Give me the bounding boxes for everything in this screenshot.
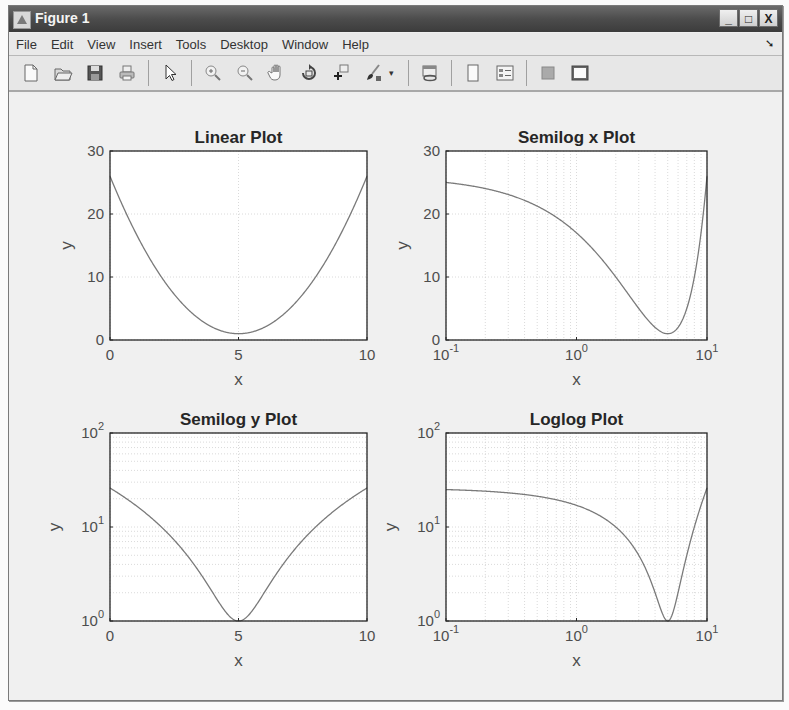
insert-legend-button[interactable] <box>493 61 517 85</box>
y-axis-label: y <box>57 241 76 250</box>
menu-file[interactable]: File <box>9 37 44 52</box>
tick-label: 20 <box>87 205 104 222</box>
link-plot-button[interactable] <box>418 61 442 85</box>
x-axis-label: x <box>234 651 243 670</box>
menu-edit[interactable]: Edit <box>44 37 80 52</box>
semilogx-plot-axes[interactable]: Semilog x Plot10-11001010102030xy <box>393 128 718 389</box>
tick-label: 0 <box>106 346 114 363</box>
hide-plot-tools-button[interactable] <box>536 61 560 85</box>
toolbar-separator <box>191 60 192 86</box>
zoom-out-button[interactable] <box>233 61 257 85</box>
tick-label: 101 <box>81 514 104 535</box>
close-button[interactable]: X <box>759 9 778 27</box>
tick-label: 100 <box>81 608 104 629</box>
zoom-in-button[interactable] <box>201 61 225 85</box>
tick-label: 102 <box>417 420 440 441</box>
edit-plot-button[interactable] <box>158 61 182 85</box>
menu-desktop[interactable]: Desktop <box>213 37 275 52</box>
save-figure-button[interactable] <box>83 61 107 85</box>
zoom-in-icon <box>203 63 223 83</box>
window-title: Figure 1 <box>35 10 89 26</box>
y-axis-label: y <box>381 522 400 531</box>
insert-colorbar-button[interactable] <box>461 61 485 85</box>
semilogy-plot-axes[interactable]: Semilog y Plot0510100101102xy <box>45 410 375 670</box>
menu-window[interactable]: Window <box>275 37 335 52</box>
zoom-out-icon <box>235 63 255 83</box>
hide-tools-icon <box>538 63 558 83</box>
menu-help[interactable]: Help <box>335 37 376 52</box>
plot-area <box>110 151 367 340</box>
figure-window: Figure 1 _ □ X File Edit View Insert Too… <box>8 5 783 701</box>
brush-dropdown-icon[interactable]: ▾ <box>389 68 399 78</box>
brush-button[interactable] <box>361 61 385 85</box>
tick-label: 101 <box>696 623 719 644</box>
tick-label: 30 <box>423 142 440 159</box>
show-tools-icon <box>570 63 590 83</box>
pan-button[interactable] <box>265 61 289 85</box>
subplot-canvas[interactable]: Linear Plot05100102030xySemilog x Plot10… <box>9 94 782 700</box>
plot-title: Semilog x Plot <box>518 128 635 147</box>
rotate-3d-button[interactable] <box>297 61 321 85</box>
legend-icon <box>495 63 515 83</box>
brush-icon <box>363 63 383 83</box>
tick-label: 0 <box>96 331 104 348</box>
y-axis-label: y <box>393 241 412 250</box>
title-bar[interactable]: Figure 1 _ □ X <box>9 6 782 32</box>
plot-title: Semilog y Plot <box>180 410 297 429</box>
tick-label: 10-1 <box>433 623 459 644</box>
menu-bar: File Edit View Insert Tools Desktop Wind… <box>9 33 782 56</box>
tick-label: 0 <box>432 331 440 348</box>
y-axis-label: y <box>45 522 64 531</box>
rotate-icon <box>299 63 319 83</box>
menu-tools[interactable]: Tools <box>169 37 213 52</box>
colorbar-icon <box>463 63 483 83</box>
x-axis-label: x <box>234 370 243 389</box>
plot-title: Linear Plot <box>195 128 283 147</box>
figure-toolbar: ▾ <box>9 56 782 92</box>
tick-label: 10 <box>87 268 104 285</box>
tick-label: 100 <box>565 342 588 363</box>
open-file-button[interactable] <box>51 61 75 85</box>
menu-insert[interactable]: Insert <box>122 37 169 52</box>
menu-view[interactable]: View <box>80 37 122 52</box>
tick-label: 102 <box>81 420 104 441</box>
arrow-cursor-icon <box>160 63 180 83</box>
x-axis-label: x <box>572 370 581 389</box>
open-folder-icon <box>53 63 73 83</box>
toolbar-separator <box>408 60 409 86</box>
dock-arrow-icon[interactable]: ➘ <box>765 37 774 50</box>
tick-label: 10 <box>359 627 376 644</box>
printer-icon <box>117 63 137 83</box>
new-file-icon <box>21 63 41 83</box>
tick-label: 20 <box>423 205 440 222</box>
toolbar-separator <box>526 60 527 86</box>
linear-plot-axes[interactable]: Linear Plot05100102030xy <box>57 128 375 389</box>
print-figure-button[interactable] <box>115 61 139 85</box>
window-controls: _ □ X <box>719 9 778 27</box>
plot-area <box>446 151 707 340</box>
tick-label: 5 <box>234 627 242 644</box>
toolbar-separator <box>148 60 149 86</box>
data-cursor-button[interactable] <box>329 61 353 85</box>
x-axis-label: x <box>572 651 581 670</box>
data-cursor-icon <box>331 63 351 83</box>
tick-label: 101 <box>696 342 719 363</box>
maximize-button[interactable]: □ <box>739 9 758 27</box>
tick-label: 100 <box>417 608 440 629</box>
tick-label: 0 <box>106 627 114 644</box>
plot-title: Loglog Plot <box>530 410 624 429</box>
loglog-plot-axes[interactable]: Loglog Plot10-1100101100101102xy <box>381 410 718 670</box>
save-disk-icon <box>85 63 105 83</box>
minimize-button[interactable]: _ <box>719 9 738 27</box>
tick-label: 5 <box>234 346 242 363</box>
tick-label: 30 <box>87 142 104 159</box>
new-figure-button[interactable] <box>19 61 43 85</box>
hand-icon <box>267 63 287 83</box>
tick-label: 10 <box>423 268 440 285</box>
tick-label: 101 <box>417 514 440 535</box>
link-plot-icon <box>420 63 440 83</box>
toolbar-separator <box>451 60 452 86</box>
show-plot-tools-button[interactable] <box>568 61 592 85</box>
tick-label: 100 <box>565 623 588 644</box>
tick-label: 10 <box>359 346 376 363</box>
